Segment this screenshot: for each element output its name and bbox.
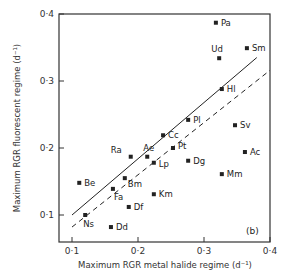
point-marker-icon bbox=[186, 159, 190, 163]
point-label: Sv bbox=[240, 120, 250, 130]
data-point: Fa bbox=[111, 187, 123, 202]
point-label: Dd bbox=[116, 222, 128, 232]
data-point: Mm bbox=[220, 169, 243, 179]
x-tick-label: 0·3 bbox=[197, 246, 211, 256]
point-label: Pt bbox=[178, 141, 187, 151]
point-label: Dg bbox=[193, 156, 205, 166]
point-label: Ud bbox=[211, 44, 223, 54]
point-marker-icon bbox=[161, 133, 165, 137]
data-point: Dg bbox=[186, 156, 205, 166]
point-marker-icon bbox=[217, 56, 221, 60]
data-point: Sv bbox=[233, 120, 250, 130]
point-marker-icon bbox=[243, 150, 247, 154]
point-marker-icon bbox=[109, 225, 113, 229]
point-marker-icon bbox=[77, 181, 81, 185]
point-marker-icon bbox=[245, 46, 249, 50]
y-tick-label: 0·2 bbox=[40, 143, 54, 153]
data-point: Dd bbox=[109, 222, 128, 232]
data-point: Bm bbox=[123, 176, 142, 189]
data-point: Be bbox=[77, 178, 95, 188]
point-marker-icon bbox=[123, 176, 127, 180]
x-tick-label: 0·1 bbox=[65, 246, 79, 256]
point-label: Lp bbox=[159, 159, 169, 169]
point-marker-icon bbox=[220, 87, 224, 91]
y-tick-label: 0·4 bbox=[40, 9, 55, 19]
data-point: Pa bbox=[214, 18, 231, 28]
regression-lines bbox=[72, 58, 270, 228]
data-point: Pt bbox=[171, 141, 187, 151]
point-marker-icon bbox=[111, 187, 115, 191]
point-marker-icon bbox=[83, 213, 87, 217]
point-marker-icon bbox=[214, 21, 218, 25]
point-marker-icon bbox=[152, 192, 156, 196]
point-label: Cc bbox=[168, 130, 179, 140]
y-axis-title: Maximum RGR fluorescent regime (d⁻¹) bbox=[12, 44, 22, 212]
point-label: Pa bbox=[221, 18, 231, 28]
point-marker-icon bbox=[145, 155, 149, 159]
panel-label: (b) bbox=[246, 226, 259, 236]
scatter-chart: 0·10·20·30·40·10·20·30·4 PaUdSmHlPlSvCcR… bbox=[0, 0, 291, 278]
data-point: Ns bbox=[83, 213, 94, 229]
point-marker-icon bbox=[220, 172, 224, 176]
point-label: Df bbox=[134, 202, 145, 212]
y-tick-label: 0·3 bbox=[40, 76, 54, 86]
x-tick-label: 0·4 bbox=[263, 246, 278, 256]
y-tick-label: 0·1 bbox=[40, 210, 54, 220]
point-marker-icon bbox=[129, 155, 133, 159]
plot-border bbox=[59, 14, 270, 242]
data-point: Lp bbox=[152, 159, 169, 169]
data-point: Sm bbox=[245, 43, 266, 53]
data-point: Df bbox=[127, 202, 145, 212]
point-marker-icon bbox=[171, 146, 175, 150]
data-point: Ud bbox=[211, 44, 223, 60]
point-label: Sm bbox=[252, 43, 266, 53]
point-label: Hl bbox=[227, 84, 236, 94]
point-label: Ns bbox=[83, 219, 94, 229]
axis-ticks: 0·10·20·30·40·10·20·30·4 bbox=[40, 9, 278, 256]
data-point: Hl bbox=[220, 84, 236, 94]
x-axis-title: Maximum RGR metal halide regime (d⁻¹) bbox=[78, 260, 252, 270]
point-marker-icon bbox=[186, 118, 190, 122]
point-label: Mm bbox=[227, 169, 243, 179]
point-label: Pl bbox=[193, 115, 201, 125]
plot-frame bbox=[59, 14, 270, 242]
data-point: Ra bbox=[111, 145, 133, 159]
point-label: Be bbox=[84, 178, 95, 188]
point-label: Ac bbox=[250, 147, 261, 157]
point-label: Ra bbox=[111, 145, 122, 155]
point-marker-icon bbox=[152, 161, 156, 165]
point-label: Bm bbox=[128, 179, 142, 189]
data-point: Km bbox=[152, 189, 173, 199]
data-points: PaUdSmHlPlSvCcRaAePtLpDgAcMmKmBeBmFaDfNs… bbox=[77, 18, 265, 232]
point-label: Ae bbox=[143, 143, 154, 153]
data-point: Ac bbox=[243, 147, 261, 157]
x-tick-label: 0·2 bbox=[131, 246, 145, 256]
point-label: Km bbox=[159, 189, 173, 199]
data-point: Cc bbox=[161, 130, 179, 140]
data-point: Ae bbox=[143, 143, 154, 159]
point-marker-icon bbox=[233, 123, 237, 127]
point-marker-icon bbox=[127, 205, 131, 209]
point-label: Fa bbox=[114, 192, 123, 202]
